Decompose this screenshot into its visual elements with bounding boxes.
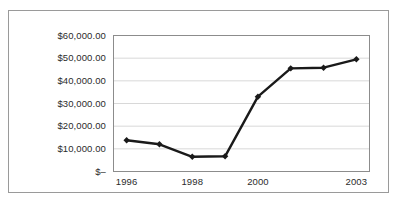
series-markers-value	[123, 56, 359, 160]
data-point-marker	[353, 56, 359, 62]
data-point-marker	[156, 141, 162, 147]
chart-figure: $60,000.00$50,000.00$40,000.00$30,000.00…	[0, 0, 399, 205]
data-point-marker	[189, 154, 195, 160]
horizontal-gridlines	[114, 36, 370, 149]
series-line-value	[127, 59, 357, 156]
line-chart-plot	[0, 0, 399, 205]
data-point-marker	[320, 64, 326, 70]
data-point-marker	[123, 137, 129, 143]
